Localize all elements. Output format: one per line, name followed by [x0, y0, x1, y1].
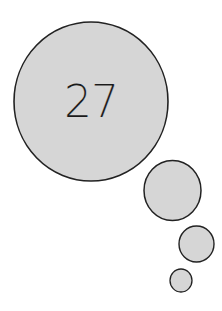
tiny-bubble	[170, 269, 192, 292]
small-bubble	[179, 226, 214, 262]
bubble-label: 27	[14, 22, 168, 181]
